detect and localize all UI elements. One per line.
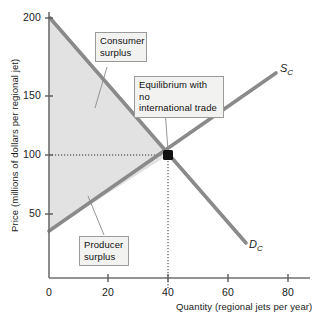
chart-plot-area [0, 0, 321, 320]
y-tick-label-200: 200 [8, 11, 41, 23]
x-tick-label-40: 40 [158, 286, 178, 298]
x-tick-label-80: 80 [278, 286, 298, 298]
supply-curve-subscript: C [287, 68, 293, 77]
economics-chart-figure: 200 150 100 50 0 20 40 60 80 Price (mill… [0, 0, 321, 320]
consumer-surplus-callout-line1: Consumer [100, 35, 142, 47]
producer-callout-leader [88, 196, 104, 235]
demand-curve-letter: D [249, 238, 257, 250]
producer-surplus-callout-line1: Producer [84, 239, 124, 251]
x-tick-label-20: 20 [98, 286, 118, 298]
consumer-surplus-callout-line2: surplus [100, 47, 142, 59]
demand-curve-subscript: C [257, 244, 263, 253]
x-tick-label-0: 0 [39, 286, 59, 298]
y-axis-title: Price (millions of dollars per regional … [9, 59, 20, 232]
producer-surplus-callout-line2: surplus [84, 251, 124, 263]
equilibrium-callout-line2: international trade [139, 102, 219, 114]
equilibrium-callout: Equilibrium with no international trade [134, 76, 224, 118]
equilibrium-callout-line1: Equilibrium with no [139, 79, 219, 102]
demand-curve-label: DC [249, 238, 263, 253]
producer-surplus-callout: Producer surplus [79, 236, 129, 266]
equilibrium-marker [163, 150, 173, 160]
supply-curve-label: SC [280, 62, 293, 77]
consumer-surplus-callout: Consumer surplus [95, 32, 147, 62]
x-axis-title: Quantity (regional jets per year) [176, 301, 312, 312]
x-tick-label-60: 60 [218, 286, 238, 298]
